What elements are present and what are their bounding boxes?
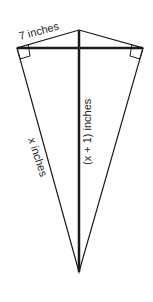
label-x-inches: x inches bbox=[26, 136, 50, 179]
label-x-plus-one-inches: (x + 1) inches bbox=[81, 98, 93, 165]
kite-diagram: 7 inches (x + 1) inches x inches bbox=[0, 0, 153, 302]
label-seven-inches: 7 inches bbox=[17, 20, 60, 42]
